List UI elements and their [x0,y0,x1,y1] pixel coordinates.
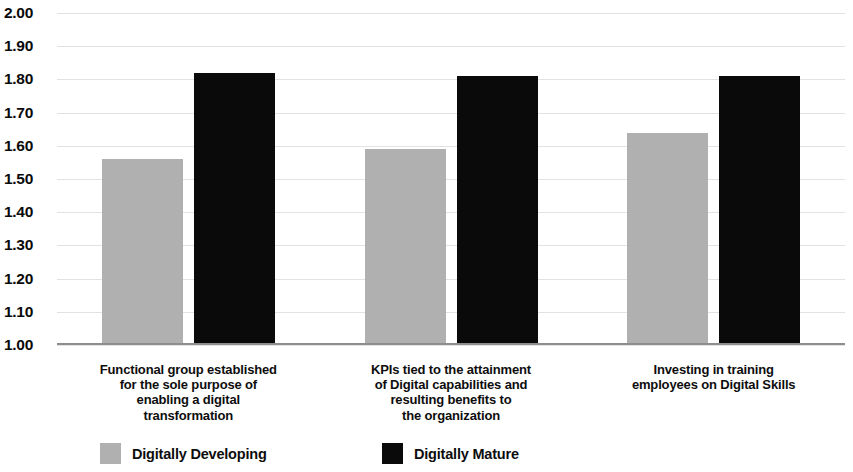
legend-label-mature: Digitally Mature [414,446,519,462]
category-label-line: of Digital capabilities and [320,377,583,392]
legend-label-developing: Digitally Developing [132,446,267,462]
bar-developing [102,159,183,345]
gridline [57,345,845,346]
category-label-line: Investing in training [582,362,845,377]
gridline [57,46,845,47]
bar-mature [457,76,538,345]
y-axis-tick-label: 2.00 [4,4,50,22]
category-label-line: KPIs tied to the attainment [320,362,583,377]
x-axis-category-label: Functional group establishedfor the sole… [57,362,320,423]
category-label-line: for the sole purpose of [57,377,320,392]
legend-entry-developing: Digitally Developing [100,443,267,464]
category-label-line: enabling a digital [57,392,320,407]
x-axis-baseline [57,343,845,345]
y-axis-tick-label: 1.00 [4,336,50,354]
category-label-line: resulting benefits to [320,392,583,407]
gridline [57,13,845,14]
y-axis-tick-label: 1.30 [4,236,50,254]
y-axis-tick-label: 1.50 [4,170,50,188]
bar-chart: 2.001.901.801.701.601.501.401.301.201.10… [0,0,853,472]
legend-swatch-developing-icon [100,443,121,464]
y-axis-tick-label: 1.70 [4,104,50,122]
y-axis-tick-label: 1.10 [4,303,50,321]
x-axis-category-label: KPIs tied to the attainmentof Digital ca… [320,362,583,423]
bar-mature [719,76,800,345]
category-label-line: employees on Digital Skills [582,377,845,392]
y-axis-tick-label: 1.60 [4,137,50,155]
plot-area [57,13,845,345]
category-label-line: Functional group established [57,362,320,377]
legend-swatch-mature-icon [382,443,403,464]
y-axis-tick-label: 1.40 [4,203,50,221]
bar-developing [627,133,708,345]
category-label-line: transformation [57,408,320,423]
y-axis-tick-label: 1.20 [4,270,50,288]
x-axis-category-label: Investing in trainingemployees on Digita… [582,362,845,392]
y-axis-tick-label: 1.90 [4,37,50,55]
y-axis-tick-label: 1.80 [4,70,50,88]
chart-legend: Digitally Developing Digitally Mature [0,443,853,472]
legend-entry-mature: Digitally Mature [382,443,519,464]
bar-developing [365,149,446,345]
category-label-line: the organization [320,408,583,423]
bar-mature [194,73,275,345]
